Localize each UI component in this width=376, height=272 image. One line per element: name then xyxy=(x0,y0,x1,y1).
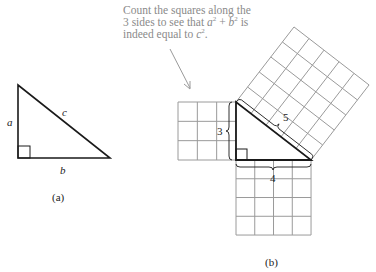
grid-line xyxy=(266,50,324,125)
pythagorean-diagram: a b c (a) 3 4 5 (b) xyxy=(0,0,376,272)
panel-label-b: (b) xyxy=(265,256,278,269)
triangle-a xyxy=(18,85,110,158)
grid-line xyxy=(271,57,346,115)
grid-line xyxy=(259,72,334,130)
brace-label-b: 4 xyxy=(270,172,276,184)
side-label-c: c xyxy=(62,106,67,118)
grid-line xyxy=(236,27,294,102)
side-label-b: b xyxy=(60,164,66,176)
grid-line xyxy=(251,39,309,114)
grid-line xyxy=(281,62,339,137)
grid-line xyxy=(296,73,354,148)
pointer-arrow xyxy=(170,49,190,89)
grid-line xyxy=(294,27,369,85)
brace-label-c: 5 xyxy=(283,111,289,123)
panel-label-a: (a) xyxy=(52,191,65,204)
brace-label-a: 3 xyxy=(217,125,223,137)
grid-line xyxy=(311,85,369,160)
brace-a xyxy=(226,102,232,160)
side-label-a: a xyxy=(7,116,13,128)
right-angle-marker-a xyxy=(18,146,30,158)
figure-b: 3 4 5 (b) xyxy=(178,27,369,269)
grid-line xyxy=(282,42,357,100)
figure-a: a b c (a) xyxy=(7,85,110,204)
